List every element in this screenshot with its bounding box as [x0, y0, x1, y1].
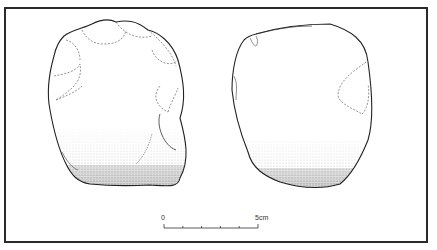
scale-start-label: 0: [161, 214, 165, 221]
scale-end-label: 5cm: [255, 214, 268, 221]
scale-bar: [164, 224, 258, 228]
left-view: [40, 20, 200, 200]
artifact-drawing: [0, 0, 437, 250]
right-view: [220, 24, 380, 200]
